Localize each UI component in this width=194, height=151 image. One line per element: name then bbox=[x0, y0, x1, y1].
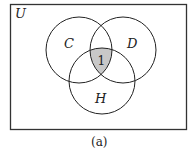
region-1-label: 1 bbox=[98, 54, 106, 68]
set-h-label: H bbox=[94, 91, 107, 106]
venn-diagram: U C D H 1 (a) bbox=[0, 0, 194, 151]
set-c-label: C bbox=[64, 36, 74, 51]
universe-label: U bbox=[15, 6, 27, 21]
caption: (a) bbox=[91, 135, 108, 149]
set-d-label: D bbox=[126, 36, 138, 51]
